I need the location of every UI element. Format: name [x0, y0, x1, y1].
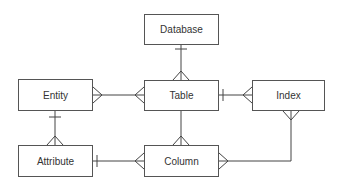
entity-label: Table	[170, 90, 194, 101]
entity-label: Entity	[43, 90, 68, 101]
entity-table[interactable]: Table	[144, 80, 219, 111]
rel-entity-attribute	[47, 111, 63, 145]
entity-attribute[interactable]: Attribute	[18, 145, 93, 177]
entity-label: Database	[160, 24, 203, 35]
entity-label: Column	[164, 156, 198, 167]
rel-table-column	[173, 111, 189, 145]
entity-index[interactable]: Index	[252, 80, 325, 111]
rel-index-column	[219, 111, 299, 169]
rel-attribute-column	[93, 153, 144, 169]
rel-table-index	[219, 87, 252, 103]
rel-entity-table	[93, 87, 144, 103]
entity-database[interactable]: Database	[144, 14, 219, 45]
entity-entity[interactable]: Entity	[18, 79, 93, 111]
entity-label: Attribute	[37, 156, 74, 167]
rel-database-table	[173, 45, 189, 80]
entity-label: Index	[276, 90, 300, 101]
entity-column[interactable]: Column	[144, 145, 219, 177]
